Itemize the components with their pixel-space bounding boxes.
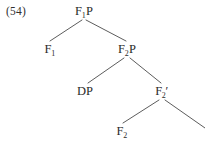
node-f1-subscript: 1 xyxy=(51,49,55,58)
tree-branches xyxy=(0,0,205,146)
node-f2p-base: F xyxy=(118,42,125,56)
syntax-tree-figure: (54) F1P F1 F2P DP F2′ F2 xyxy=(0,0,205,146)
tree-node-f2p: F2P xyxy=(118,43,136,56)
node-f2bar-base: F xyxy=(155,84,162,98)
node-f2term-base: F xyxy=(117,124,124,138)
node-f1-base: F xyxy=(45,42,52,56)
node-dp-base: DP xyxy=(77,84,93,98)
branch-f2p-to-dp xyxy=(88,58,124,83)
branch-f2bar-to-open xyxy=(165,100,205,128)
tree-node-f2-bar: F2′ xyxy=(155,85,169,98)
tree-node-f1: F1 xyxy=(45,43,56,56)
branch-root-to-f2p xyxy=(86,20,126,41)
branch-f2bar-to-f2term xyxy=(123,100,159,123)
branch-root-to-f1 xyxy=(50,20,82,41)
branch-f2p-to-f2bar xyxy=(130,58,161,83)
tree-node-root: F1P xyxy=(75,5,93,18)
node-root-subscript: 1 xyxy=(82,11,86,20)
tree-node-f2-terminal: F2 xyxy=(117,125,128,138)
node-f2p-subscript: 2 xyxy=(125,49,129,58)
node-f2bar-prime: ′ xyxy=(166,84,169,98)
node-f2term-subscript: 2 xyxy=(123,131,127,140)
node-f2p-suffix: P xyxy=(129,42,136,56)
node-root-base: F xyxy=(75,4,82,18)
tree-node-dp: DP xyxy=(77,85,93,98)
node-root-suffix: P xyxy=(86,4,93,18)
